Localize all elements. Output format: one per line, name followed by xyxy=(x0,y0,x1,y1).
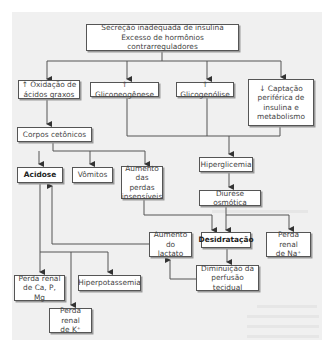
node-aumento-lactato: Aumento do lactato xyxy=(149,232,192,257)
node-root: Secreção inadequada de insulina Excesso … xyxy=(86,24,239,51)
node-perfusao-tecidual: Diminuição da perfusão tecidual xyxy=(196,265,259,291)
node-oxidacao: ↑ Oxidação de ácidos graxos xyxy=(18,80,80,99)
node-perdas-insensiveis: Aumento das perdas insensíveis xyxy=(121,166,163,199)
node-gliconeogenese: ↑ Gliconeogênese xyxy=(90,82,159,97)
node-perda-k: Perda renal de K⁺ xyxy=(49,308,92,333)
node-perda-ca-p-mg: Perda renal de Ca, P, Mg xyxy=(14,275,65,301)
node-diurese-osmotica: Diurese osmótica xyxy=(199,190,261,206)
node-acidose: Acidose xyxy=(17,167,63,183)
node-glicogenolise: ↑ Glicogenólise xyxy=(176,82,234,97)
node-captacao: ↓ Captação periférica de insulina e meta… xyxy=(248,79,314,126)
node-perda-na: Perda renal de Na⁺ xyxy=(266,232,311,257)
node-corpos-cetonicos: Corpos cetônicos xyxy=(17,127,92,142)
node-desidratacao: Desidratação xyxy=(201,232,251,248)
node-vomitos: Vômitos xyxy=(72,167,113,183)
node-hiperglicemia: Hiperglicemia xyxy=(199,157,253,172)
node-hiperpotassemia: Hiperpotassemia xyxy=(78,275,141,291)
